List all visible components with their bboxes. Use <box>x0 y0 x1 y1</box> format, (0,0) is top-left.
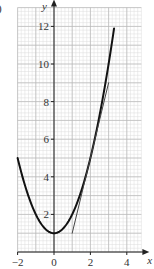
y-tick-label: 6 <box>44 133 50 145</box>
chart: ) −202424681012xy <box>0 0 154 269</box>
y-tick-label: 4 <box>44 171 50 183</box>
x-tick-label: −2 <box>12 256 24 268</box>
y-tick-label: 8 <box>44 96 50 108</box>
y-tick-label: 10 <box>38 58 50 70</box>
y-axis-label: y <box>41 0 47 12</box>
x-tick-label: 4 <box>124 256 130 268</box>
x-axis-label: x <box>146 254 152 266</box>
tick-labels: −202424681012xy <box>12 0 153 268</box>
x-tick-label: 2 <box>88 256 94 268</box>
part-label: ) <box>0 2 2 15</box>
y-tick-label: 12 <box>38 20 49 32</box>
y-tick-label: 2 <box>44 208 50 220</box>
x-tick-label: 0 <box>51 256 57 268</box>
